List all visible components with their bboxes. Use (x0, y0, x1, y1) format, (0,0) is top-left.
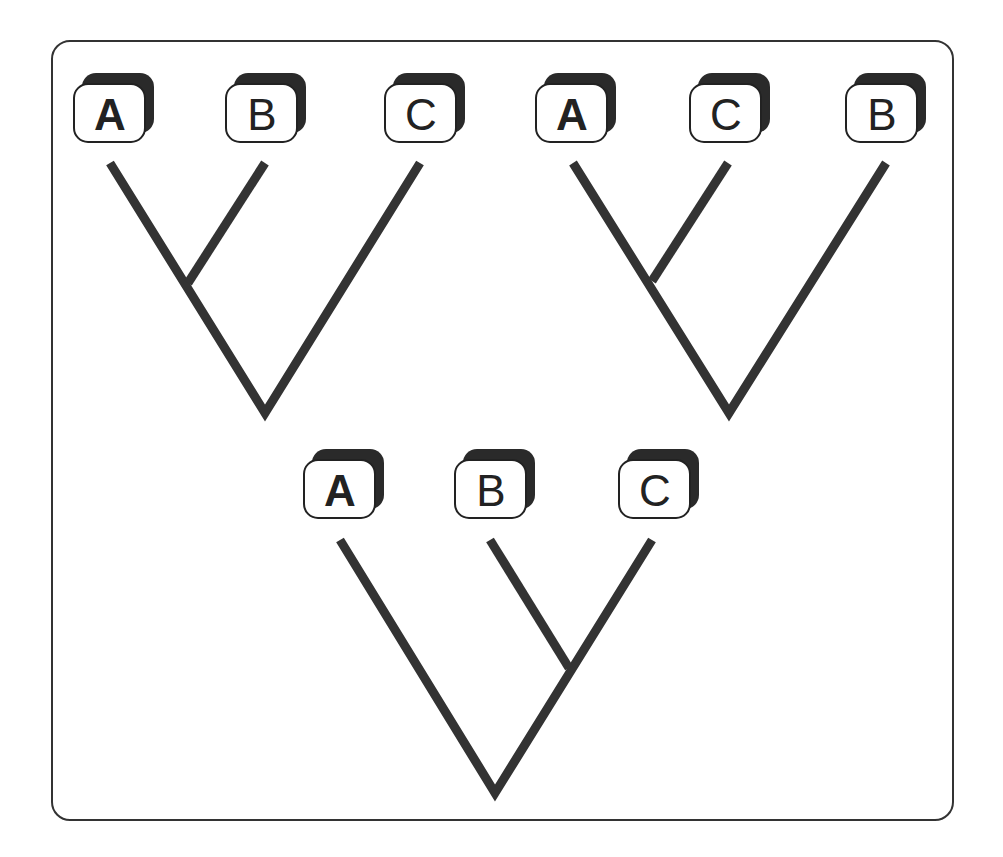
diagram-canvas: A B C A C B (0, 0, 1003, 857)
taxon-box-b: B (846, 73, 926, 142)
taxon-label: B (867, 90, 896, 139)
taxon-label: A (556, 90, 588, 139)
taxon-label: C (639, 466, 671, 515)
taxon-box-a: A (536, 73, 616, 142)
taxon-box-a: A (304, 449, 384, 518)
taxon-label: A (324, 466, 356, 515)
diagram-frame (52, 41, 953, 820)
taxon-label: B (476, 466, 505, 515)
taxon-box-c: C (690, 73, 770, 142)
taxon-label: C (710, 90, 742, 139)
taxon-label: A (94, 90, 126, 139)
taxon-box-c: C (619, 449, 699, 518)
taxon-box-c: C (385, 73, 465, 142)
taxon-label: C (405, 90, 437, 139)
taxon-label: B (247, 90, 276, 139)
taxon-box-b: B (226, 73, 306, 142)
taxon-box-b: B (455, 449, 535, 518)
taxon-box-a: A (74, 73, 154, 142)
